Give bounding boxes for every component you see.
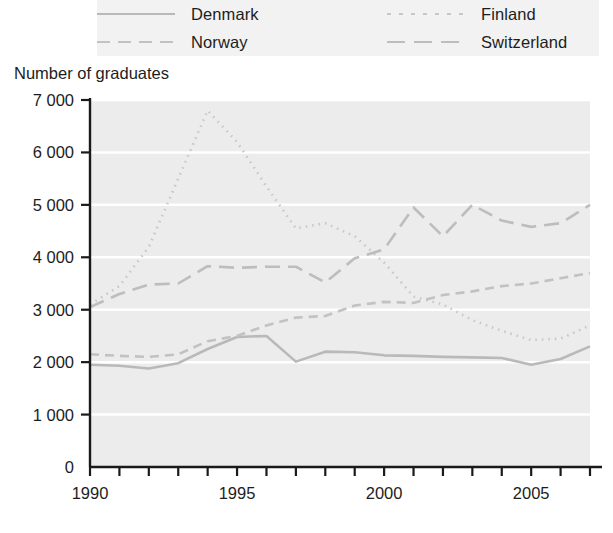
- y-tick-label-5000: 5 000: [33, 196, 74, 214]
- chart-plot: 01 0002 0003 0004 0005 0006 0007 000 199…: [0, 88, 613, 518]
- chart-legend: Denmark Finland Norway Switzerland: [97, 0, 599, 56]
- x-tick-label-1995: 1995: [219, 484, 256, 502]
- legend-label-norway: Norway: [191, 33, 248, 52]
- legend-label-switzerland: Switzerland: [481, 33, 567, 52]
- y-axis-ticks: 01 0002 0003 0004 0005 0006 0007 000: [33, 91, 90, 476]
- legend-swatch-finland: [387, 13, 465, 16]
- legend-label-finland: Finland: [481, 5, 536, 24]
- y-tick-label-6000: 6 000: [33, 143, 74, 161]
- x-tick-label-1990: 1990: [72, 484, 109, 502]
- y-tick-label-7000: 7 000: [33, 91, 74, 109]
- plot-area-wrapper: 01 0002 0003 0004 0005 0006 0007 000 199…: [0, 88, 613, 518]
- legend-swatch-norway: [97, 41, 175, 44]
- y-tick-label-0: 0: [65, 458, 74, 476]
- legend-swatch-denmark: [97, 13, 175, 16]
- x-tick-label-2005: 2005: [513, 484, 550, 502]
- y-tick-label-1000: 1 000: [33, 406, 74, 424]
- legend-item-norway: Norway: [97, 28, 387, 56]
- x-axis-ticks: 1990199520002005: [72, 467, 590, 502]
- legend-item-denmark: Denmark: [97, 0, 387, 28]
- legend-item-finland: Finland: [387, 0, 599, 28]
- legend-label-denmark: Denmark: [191, 5, 259, 24]
- chart-figure: Denmark Finland Norway Switzerland Numbe…: [0, 0, 613, 533]
- y-tick-label-4000: 4 000: [33, 248, 74, 266]
- legend-swatch-switzerland: [387, 41, 465, 44]
- y-tick-label-2000: 2 000: [33, 353, 74, 371]
- x-tick-label-2000: 2000: [366, 484, 403, 502]
- legend-item-switzerland: Switzerland: [387, 28, 599, 56]
- y-tick-label-3000: 3 000: [33, 301, 74, 319]
- y-axis-title: Number of graduates: [14, 64, 169, 83]
